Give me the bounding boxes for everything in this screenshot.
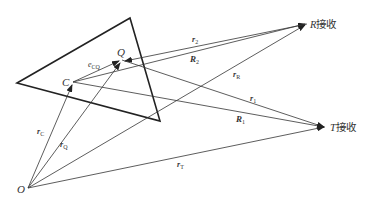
label-r2: r2 <box>192 35 198 45</box>
point-C-label: C <box>62 76 70 88</box>
vector-r2 <box>73 24 305 82</box>
label-rQ: rQ <box>60 140 68 150</box>
label-eCQ: eCQ <box>88 60 101 70</box>
label-rT: rT <box>177 160 184 170</box>
vector-R1 <box>73 82 324 127</box>
vector-R2 <box>125 24 307 61</box>
point-Q-label: Q <box>117 46 125 58</box>
label-rC: rC <box>37 127 44 137</box>
point-O-label: O <box>17 183 25 195</box>
vector-rT <box>28 127 324 188</box>
label-R1: R1 <box>235 114 245 125</box>
label-R2: R2 <box>189 54 199 65</box>
receiver-R-label: R接收 <box>309 18 337 30</box>
vector-rC <box>28 85 72 188</box>
label-r1: r1 <box>250 94 256 104</box>
vector-diagram: O C Q R接收 T接收 rC rQ rR rT eCQ r2 R2 r1 R… <box>0 0 371 205</box>
label-rR: rR <box>233 70 240 80</box>
receiver-T-label: T接收 <box>330 121 357 133</box>
